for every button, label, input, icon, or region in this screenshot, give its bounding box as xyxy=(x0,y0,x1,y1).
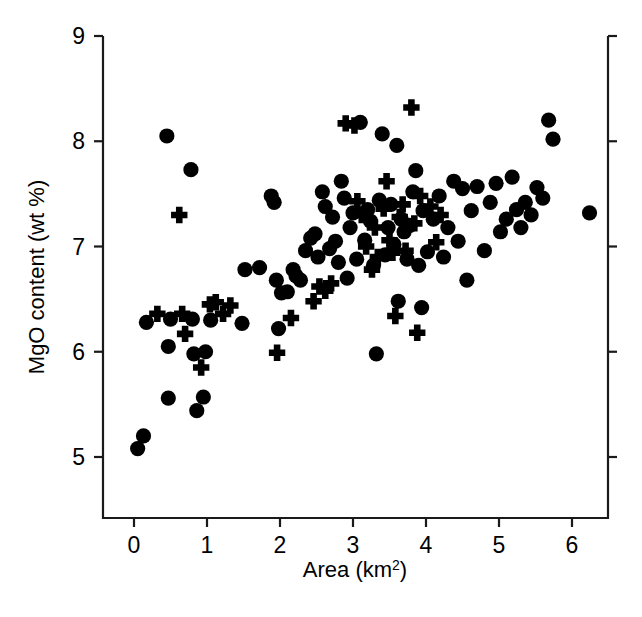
data-point-circle xyxy=(582,205,597,220)
data-point-circle xyxy=(505,169,520,184)
y-tick-label: 9 xyxy=(72,23,85,49)
data-point-circle xyxy=(541,113,556,128)
data-point-circle xyxy=(513,220,528,235)
data-point-circle xyxy=(488,176,503,191)
y-axis-tick-labels: 56789 xyxy=(72,23,85,470)
data-point-circle xyxy=(234,316,249,331)
y-tick-label: 8 xyxy=(72,128,85,154)
data-point-circle xyxy=(535,190,550,205)
x-tick-label: 6 xyxy=(566,532,579,558)
data-point-circle xyxy=(483,195,498,210)
x-tick-label: 0 xyxy=(128,532,141,558)
data-point-circle xyxy=(375,126,390,141)
x-tick-label: 1 xyxy=(201,532,214,558)
data-point-circle xyxy=(315,184,330,199)
x-tick-label: 3 xyxy=(347,532,360,558)
data-point-circle xyxy=(159,128,174,143)
data-point-circle xyxy=(451,234,466,249)
x-axis-ticks xyxy=(134,518,572,527)
x-axis-title: Area (km2) xyxy=(303,557,407,582)
data-point-plus xyxy=(305,293,321,309)
data-point-circle xyxy=(414,300,429,315)
x-tick-label: 4 xyxy=(420,532,433,558)
y-axis-title: MgO content (wt %) xyxy=(24,180,49,374)
data-point-circle xyxy=(237,262,252,277)
data-point-circle xyxy=(455,181,470,196)
data-point-circle xyxy=(267,195,282,210)
data-point-circle xyxy=(280,284,295,299)
data-point-circle xyxy=(189,403,204,418)
data-point-circle xyxy=(196,389,211,404)
data-point-plus xyxy=(403,99,419,115)
data-point-circle xyxy=(161,339,176,354)
data-point-circle xyxy=(307,226,322,241)
data-point-circle xyxy=(389,138,404,153)
data-point-circle xyxy=(436,249,451,264)
x-axis-tick-labels: 0123456 xyxy=(128,532,579,558)
y-tick-label: 5 xyxy=(72,444,85,470)
data-point-circle xyxy=(183,162,198,177)
x-tick-label: 5 xyxy=(493,532,506,558)
data-point-circle xyxy=(342,220,357,235)
data-point-circle xyxy=(340,270,355,285)
data-point-circle xyxy=(136,428,151,443)
data-point-circle xyxy=(252,260,267,275)
data-point-plus xyxy=(193,359,209,375)
data-point-circle xyxy=(432,188,447,203)
data-point-circle xyxy=(271,321,286,336)
data-point-circle xyxy=(477,243,492,258)
x-tick-label: 2 xyxy=(274,532,287,558)
data-point-plus xyxy=(409,325,425,341)
y-tick-label: 7 xyxy=(72,234,85,260)
data-point-circle xyxy=(328,234,343,249)
data-point-plus xyxy=(269,345,285,361)
scatter-plot-figure: 0123456 56789 Area (km2) MgO content (wt… xyxy=(0,0,642,617)
data-point-plus xyxy=(378,173,394,189)
data-point-circle xyxy=(470,179,485,194)
data-point-circle xyxy=(334,174,349,189)
plot-svg: 0123456 56789 Area (km2) MgO content (wt… xyxy=(0,0,642,617)
series-circles xyxy=(130,113,597,457)
data-point-circle xyxy=(198,344,213,359)
data-point-plus xyxy=(387,308,403,324)
data-point-circle xyxy=(524,207,539,222)
data-point-circle xyxy=(420,244,435,259)
data-point-plus xyxy=(283,310,299,326)
data-point-circle xyxy=(411,258,426,273)
data-point-plus xyxy=(171,207,187,223)
data-point-circle xyxy=(161,390,176,405)
plot-frame xyxy=(103,36,608,518)
y-tick-label: 6 xyxy=(72,339,85,365)
data-point-circle xyxy=(459,273,474,288)
data-point-circle xyxy=(464,203,479,218)
data-point-plus xyxy=(177,326,193,342)
data-point-circle xyxy=(408,163,423,178)
data-point-circle xyxy=(369,346,384,361)
data-point-circle xyxy=(331,255,346,270)
data-point-circle xyxy=(391,294,406,309)
axis-spines xyxy=(103,36,608,518)
data-point-circle xyxy=(349,252,364,267)
data-point-circle xyxy=(293,273,308,288)
data-point-circle xyxy=(545,132,560,147)
data-point-circle xyxy=(325,209,340,224)
